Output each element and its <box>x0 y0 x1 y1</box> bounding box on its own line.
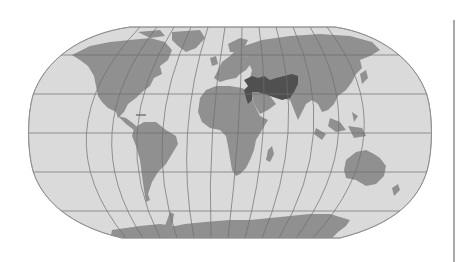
world-map <box>0 0 458 262</box>
map-figure <box>0 0 458 262</box>
vertical-divider <box>453 20 455 262</box>
